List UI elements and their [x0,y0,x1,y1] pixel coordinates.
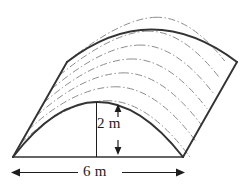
ruling-line-far-2 [114,87,196,141]
ruling-line-far-3 [122,73,202,125]
ruling-lines-group [21,17,155,143]
ruling-line-far-7 [155,17,225,61]
ruling-line-6 [59,31,146,75]
parabolic-prism-diagram [0,0,243,194]
right-receding-edge [183,62,237,157]
ruling-line-far-6 [147,31,219,77]
height-dimension-label: 2 m [97,116,121,131]
ruling-line-far-5 [138,45,213,93]
ruling-line-7 [67,17,155,62]
width-arrow-head-right [176,169,185,177]
width-arrow-head-left [11,169,20,177]
left-receding-edge [13,62,67,157]
back-arch-outline [67,30,237,63]
width-dimension-label: 6 m [80,164,110,179]
figure-container: 2 m 6 m [0,0,243,194]
ruling-line-far-4 [130,59,207,109]
